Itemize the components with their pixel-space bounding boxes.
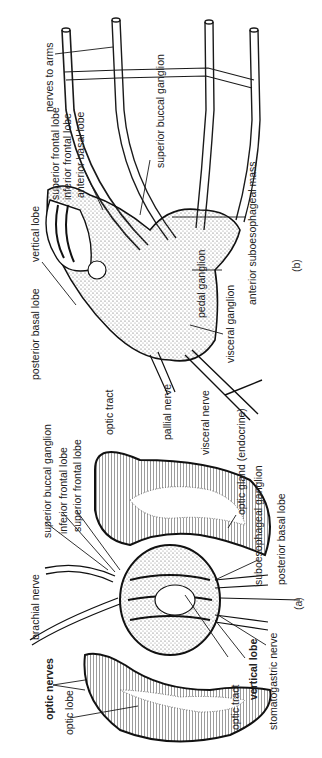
label-b-superior-frontal-lobe: superior frontal lobe [50, 107, 61, 200]
label-brachial-nerve: brachial nerve [30, 574, 41, 640]
panel-b-tag: (b) [290, 259, 302, 272]
label-suboesophageal-ganglion: suboesophageal ganglion [253, 465, 264, 585]
label-pedal-ganglion: pedal ganglion [196, 250, 207, 318]
label-optic-lobe: optic lobe [64, 690, 75, 735]
label-optic-gland: optic gland (endocrine) [236, 408, 247, 515]
label-a-vertical-lobe: vertical lobe [248, 639, 259, 700]
label-visceral-ganglion: visceral ganglion [225, 285, 236, 363]
label-stomatogastric-nerve: stomatogastric nerve [268, 633, 279, 730]
label-b-optic-tract: optic tract [104, 389, 115, 435]
label-b-anterior-basal-lobe: anterior basal lobe [75, 112, 86, 198]
label-b-posterior-basal-lobe: posterior basal lobe [30, 288, 41, 380]
label-a-optic-tract: optic tract [230, 684, 241, 730]
label-nerves-to-arms: nerves to arms [44, 43, 55, 112]
label-optic-nerves: optic nerves [44, 658, 55, 720]
label-visceral-nerve: visceral nerve [200, 390, 211, 455]
label-b-superior-buccal-ganglion: superior buccal ganglion [155, 54, 166, 168]
label-a-posterior-basal-lobe: posterior basal lobe [276, 493, 287, 585]
label-b-inferior-frontal-lobe: inferior frontal lobe [62, 113, 73, 200]
label-a-superior-frontal-lobe: superior frontal lobe [72, 439, 83, 532]
label-a-inferior-frontal-lobe: inferior frontal lobe [58, 447, 69, 534]
label-anterior-suboesophageal-mass: anterior suboesophageal mass [247, 161, 258, 305]
label-pallial-nerve: pallial nerve [162, 384, 173, 440]
panel-a-tag: (a) [292, 597, 304, 610]
label-b-vertical-lobe: vertical lobe [30, 206, 41, 262]
label-a-superior-buccal-ganglion: superior buccal ganglion [42, 424, 53, 538]
